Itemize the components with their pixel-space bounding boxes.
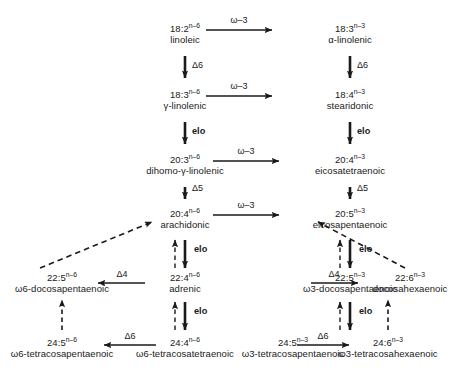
node-adrenic-formula: 22:4n–6 xyxy=(169,271,201,284)
node-alpha-linolenic-formula: 18:3n–3 xyxy=(328,22,372,35)
node-docosahexaenoic: 22:6n–3 docosahexaenoic xyxy=(373,271,448,294)
label-omega3-row2: ω–3 xyxy=(230,81,247,91)
label-n3-elo-20: elo xyxy=(359,244,372,254)
label-n6-elo-22: elo xyxy=(194,306,207,316)
node-gamma-linolenic-name: γ-linolenic xyxy=(164,101,207,112)
node-gamma-linolenic: 18:3n–6 γ-linolenic xyxy=(164,88,207,111)
node-arachidonic: 20:4n–6 arachidonic xyxy=(160,207,209,230)
node-omega6-tetracosatetraenoic-formula: 24:4n–6 xyxy=(136,336,234,349)
node-arachidonic-formula: 20:4n–6 xyxy=(160,207,209,220)
label-n3-delta6-18: Δ6 xyxy=(357,60,368,70)
node-linoleic-formula: 18:2n–6 xyxy=(170,22,200,35)
node-omega6-tetracosapentaenoic: 24:5n–6 ω6-tetracosapentaenoic xyxy=(11,336,114,359)
node-linoleic-name: linoleic xyxy=(170,35,200,46)
node-dihomo-gamma-linolenic: 20:3n–6 dihomo-γ-linolenic xyxy=(146,153,223,176)
node-omega6-tetracosatetraenoic-name: ω6-tetracosatetraenoic xyxy=(136,349,234,360)
node-omega3-tetracosahexaenoic-formula: 24:6n–3 xyxy=(338,336,437,349)
node-omega6-tetracosatetraenoic: 24:4n–6 ω6-tetracosatetraenoic xyxy=(136,336,234,359)
label-n3-delta6-24: Δ6 xyxy=(317,331,328,341)
node-eicosatetraenoic-formula: 20:4n–3 xyxy=(315,153,385,166)
node-alpha-linolenic: 18:3n–3 α-linolenic xyxy=(328,22,372,45)
node-omega6-docosapentaenoic-name: ω6-docosapentaenoic xyxy=(15,284,109,295)
label-omega3-row1: ω–3 xyxy=(230,15,247,25)
label-n3-delta5-20: Δ5 xyxy=(357,183,368,193)
pathway-arrows xyxy=(0,0,449,379)
node-omega6-tetracosapentaenoic-name: ω6-tetracosapentaenoic xyxy=(11,349,114,360)
node-stearidonic: 18:4n–3 stearidonic xyxy=(327,88,374,111)
node-omega6-docosapentaenoic: 22:5n–6 ω6-docosapentaenoic xyxy=(15,271,109,294)
node-linoleic: 18:2n–6 linoleic xyxy=(170,22,200,45)
label-n6-delta4-22: Δ4 xyxy=(116,269,127,279)
node-omega3-tetracosapentaenoic-formula: 24:5n–3 xyxy=(242,336,345,349)
label-n6-elo-18: elo xyxy=(192,126,205,136)
node-omega3-tetracosahexaenoic-name: ω3-tetracosahexaenoic xyxy=(338,349,437,360)
node-eicosapentaenoic-formula: 20:5n–3 xyxy=(313,207,388,220)
node-dihomo-gamma-linolenic-formula: 20:3n–6 xyxy=(146,153,223,166)
node-eicosapentaenoic: 20:5n–3 eicosapentaenoic xyxy=(313,207,388,230)
label-omega3-row3: ω–3 xyxy=(237,146,254,156)
node-adrenic-name: adrenic xyxy=(169,284,201,295)
node-omega6-tetracosapentaenoic-formula: 24:5n–6 xyxy=(11,336,114,349)
arrow-n6-diagonal-retro xyxy=(40,222,152,268)
node-omega6-docosapentaenoic-formula: 22:5n–6 xyxy=(15,271,109,284)
node-docosahexaenoic-name: docosahexaenoic xyxy=(373,284,448,295)
node-omega3-tetracosapentaenoic-name: ω3-tetracosapentaenoic xyxy=(242,349,345,360)
node-docosahexaenoic-formula: 22:6n–3 xyxy=(373,271,448,284)
label-n3-elo-18: elo xyxy=(357,126,370,136)
node-dihomo-gamma-linolenic-name: dihomo-γ-linolenic xyxy=(146,166,223,177)
node-adrenic: 22:4n–6 adrenic xyxy=(169,271,201,294)
node-stearidonic-name: stearidonic xyxy=(327,101,374,112)
node-omega3-tetracosahexaenoic: 24:6n–3 ω3-tetracosahexaenoic xyxy=(338,336,437,359)
label-n3-elo-22: elo xyxy=(359,306,372,316)
label-n6-elo-20: elo xyxy=(194,244,207,254)
label-n3-delta4-22: Δ4 xyxy=(328,269,339,279)
label-n6-delta6-18: Δ6 xyxy=(192,60,203,70)
node-omega3-tetracosapentaenoic: 24:5n–3 ω3-tetracosapentaenoic xyxy=(242,336,345,359)
label-n6-delta5-20: Δ5 xyxy=(192,183,203,193)
pufa-pathway-diagram: 18:2n–6 linoleic 18:3n–3 α-linolenic ω–3… xyxy=(0,0,449,379)
node-gamma-linolenic-formula: 18:3n–6 xyxy=(164,88,207,101)
node-alpha-linolenic-name: α-linolenic xyxy=(328,35,372,46)
node-eicosatetraenoic: 20:4n–3 eicosatetraenoic xyxy=(315,153,385,176)
label-omega3-row4: ω–3 xyxy=(237,200,254,210)
node-eicosatetraenoic-name: eicosatetraenoic xyxy=(315,166,385,177)
node-eicosapentaenoic-name: eicosapentaenoic xyxy=(313,220,388,231)
label-n6-delta6-24: Δ6 xyxy=(124,331,135,341)
node-stearidonic-formula: 18:4n–3 xyxy=(327,88,374,101)
node-arachidonic-name: arachidonic xyxy=(160,220,209,231)
